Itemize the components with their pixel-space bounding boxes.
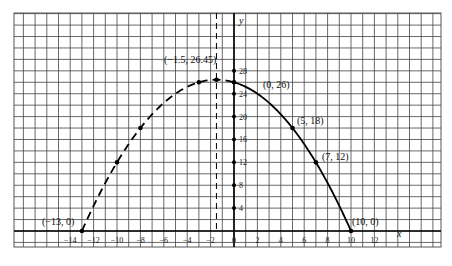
svg-text:28: 28 [239, 67, 247, 76]
svg-text:20: 20 [239, 113, 247, 122]
parabola-chart: −14−12−10−8−6−4−2024681012481216202428 x… [0, 0, 452, 266]
svg-text:0: 0 [232, 236, 236, 245]
svg-text:12: 12 [239, 158, 247, 167]
svg-text:4: 4 [279, 236, 283, 245]
point-label-7-12: (7, 12) [322, 151, 349, 163]
svg-text:−2: −2 [206, 236, 215, 245]
point-label-neg13-0: (−13, 0) [42, 216, 74, 228]
x-axis-label: x [396, 228, 402, 239]
svg-text:10: 10 [347, 236, 355, 245]
svg-text:−8: −8 [136, 236, 145, 245]
svg-text:2: 2 [255, 236, 259, 245]
svg-text:8: 8 [239, 181, 243, 190]
svg-text:−12: −12 [87, 236, 100, 245]
svg-text:24: 24 [239, 90, 247, 99]
svg-text:−4: −4 [183, 236, 192, 245]
point-label-vertex: (−1.5, 26.45) [164, 54, 216, 66]
svg-text:−6: −6 [160, 236, 169, 245]
grid [14, 13, 441, 247]
svg-text:−14: −14 [64, 236, 77, 245]
svg-text:12: 12 [370, 236, 378, 245]
y-axis-label: y [238, 15, 244, 26]
svg-text:8: 8 [326, 236, 330, 245]
point-label-0-26: (0, 26) [263, 79, 290, 91]
svg-text:6: 6 [302, 236, 306, 245]
point-label-10-0: (10, 0) [352, 216, 379, 228]
point-label-5-18: (5, 18) [297, 115, 324, 127]
svg-text:−10: −10 [111, 236, 124, 245]
svg-text:16: 16 [239, 135, 247, 144]
svg-text:4: 4 [239, 204, 243, 213]
